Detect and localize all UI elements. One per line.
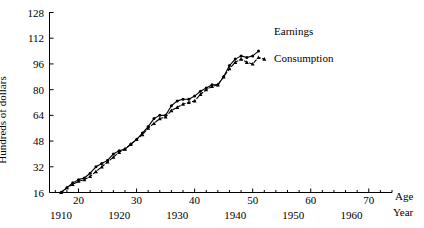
x-axis-label-year: Year [393, 206, 413, 218]
y-tick-label: 96 [18, 58, 44, 69]
y-tick-label: 16 [18, 187, 44, 198]
x-tick-label-age: 60 [305, 195, 316, 206]
x-tick-label-year: 1910 [50, 210, 72, 221]
y-axis-label: Hundreds of dollars [0, 76, 8, 163]
x-tick-label-age: 50 [247, 195, 258, 206]
series-label-earnings: Earnings [274, 25, 313, 37]
y-tick-label: 80 [18, 84, 44, 95]
y-tick-label: 64 [18, 110, 44, 121]
series-label-consumption: Consumption [274, 52, 333, 64]
x-tick-label-age: 20 [73, 195, 84, 206]
y-tick-label: 112 [18, 33, 44, 44]
y-tick-label: 48 [18, 136, 44, 147]
chart-plot-area [0, 0, 424, 228]
x-tick-label-year: 1960 [340, 210, 362, 221]
series-earnings [60, 50, 260, 194]
x-tick-label-age: 30 [131, 195, 142, 206]
data-series [59, 50, 266, 195]
x-tick-label-year: 1940 [224, 210, 246, 221]
x-tick-label-year: 1930 [166, 210, 188, 221]
x-tick-label-year: 1920 [108, 210, 130, 221]
y-tick-label: 32 [18, 161, 44, 172]
y-tick-label: 128 [18, 7, 44, 18]
x-axis-label-age: Age [395, 190, 413, 202]
x-tick-label-age: 40 [189, 195, 200, 206]
axes [50, 12, 393, 193]
x-tick-label-age: 70 [363, 195, 374, 206]
chart-figure: Hundreds of dollars 163248648096112128 2… [0, 0, 424, 228]
x-tick-label-year: 1950 [282, 210, 304, 221]
